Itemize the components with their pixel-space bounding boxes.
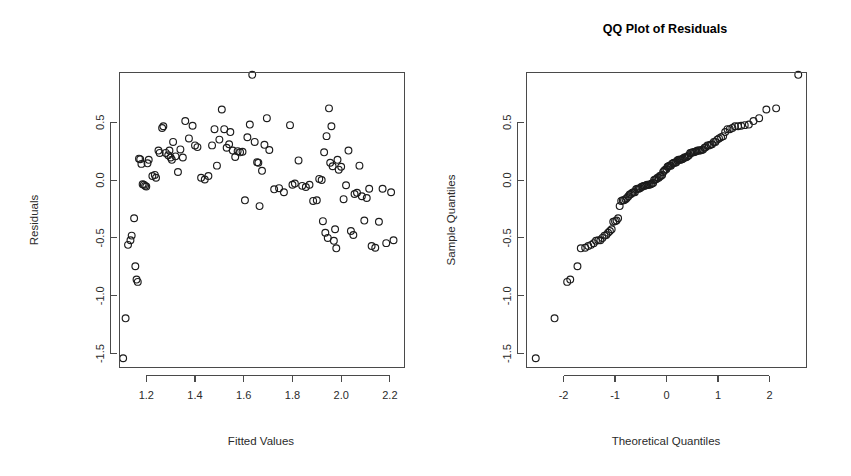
data-point [131, 215, 138, 222]
qq-plot-box [527, 73, 807, 368]
qq-axes: -2-10120.50.0-0.5-1.0-1.5 [502, 115, 773, 401]
y-tick-label: -1.0 [502, 286, 514, 305]
data-point [242, 197, 249, 204]
x-tick-label: 2 [766, 389, 772, 401]
x-tick-label: 1.4 [187, 389, 202, 401]
data-point [763, 106, 770, 113]
x-tick-label: 2.2 [382, 389, 397, 401]
data-point [227, 129, 234, 136]
data-point [179, 154, 186, 161]
data-point [388, 189, 395, 196]
data-point [244, 134, 251, 141]
data-point [321, 149, 328, 156]
data-point [574, 263, 581, 270]
data-point [334, 156, 341, 163]
data-point [251, 139, 258, 146]
y-tick-label: -1.5 [95, 344, 107, 363]
y-tick-label: 0.5 [502, 115, 514, 130]
data-point [333, 245, 340, 252]
data-point [160, 123, 167, 130]
data-point [328, 123, 335, 130]
data-point [345, 147, 352, 154]
data-point [209, 142, 216, 149]
data-point [773, 105, 780, 112]
data-point [287, 122, 294, 129]
x-tick-label: 1.8 [285, 389, 300, 401]
data-point [214, 162, 221, 169]
residuals-y-axis-title: Residuals [28, 195, 40, 246]
y-tick-label: -1.0 [95, 286, 107, 305]
data-point [756, 115, 763, 122]
data-point [551, 315, 558, 322]
y-tick-label: -0.5 [95, 228, 107, 247]
y-tick-label: 0.0 [502, 172, 514, 187]
data-point [326, 105, 333, 112]
x-tick-label: 2.0 [334, 389, 349, 401]
residuals-x-axis-title: Fitted Values [228, 435, 295, 447]
data-point [295, 157, 302, 164]
data-point [263, 115, 270, 122]
data-point [532, 355, 539, 362]
y-tick-label: 0.0 [95, 172, 107, 187]
data-point [175, 169, 182, 176]
y-tick-label: -1.5 [502, 344, 514, 363]
data-point [211, 126, 218, 133]
diagnostic-figure: 1.21.41.61.82.02.20.50.0-0.5-1.0-1.5 Fit… [0, 0, 851, 476]
data-point [259, 167, 266, 174]
data-point [343, 182, 350, 189]
data-point [332, 226, 339, 233]
data-point [745, 121, 752, 128]
data-point [281, 189, 288, 196]
data-point [323, 133, 330, 140]
data-point [246, 121, 253, 128]
data-point [354, 189, 361, 196]
residuals-plot-box [120, 73, 405, 368]
qq-plot-svg: QQ Plot of Residuals -2-10120.50.0-0.5-1… [430, 0, 851, 476]
qq-plot-panel: QQ Plot of Residuals -2-10120.50.0-0.5-1… [430, 0, 851, 476]
data-point [390, 237, 397, 244]
data-point [186, 135, 193, 142]
qq-y-axis-title: Sample Quantiles [445, 174, 457, 265]
data-point [170, 139, 177, 146]
residuals-points-layer [120, 71, 397, 361]
data-point [189, 122, 196, 129]
x-tick-label: 1 [715, 389, 721, 401]
qq-plot-title: QQ Plot of Residuals [603, 22, 727, 36]
data-point [182, 118, 189, 125]
x-tick-label: 0 [663, 389, 669, 401]
data-point [320, 218, 327, 225]
y-tick-label: -0.5 [502, 228, 514, 247]
data-point [383, 240, 390, 247]
data-point [271, 186, 278, 193]
data-point [356, 162, 363, 169]
x-tick-label: -1 [610, 389, 620, 401]
residuals-plot-svg: 1.21.41.61.82.02.20.50.0-0.5-1.0-1.5 Fit… [0, 0, 430, 476]
data-point [379, 185, 386, 192]
data-point [218, 106, 225, 113]
x-tick-label: 1.2 [139, 389, 154, 401]
data-point [291, 180, 298, 187]
data-point [120, 355, 127, 362]
qq-x-axis-title: Theoretical Quantiles [612, 435, 721, 447]
x-tick-label: -2 [559, 389, 569, 401]
data-point [376, 218, 383, 225]
data-point [330, 237, 337, 244]
data-point [177, 146, 184, 153]
data-point [318, 177, 325, 184]
x-tick-label: 1.6 [236, 389, 251, 401]
data-point [122, 315, 129, 322]
residuals-vs-fitted-panel: 1.21.41.61.82.02.20.50.0-0.5-1.0-1.5 Fit… [0, 0, 430, 476]
data-point [132, 263, 139, 270]
data-point [366, 185, 373, 192]
residuals-axes: 1.21.41.61.82.02.20.50.0-0.5-1.0-1.5 [95, 115, 398, 401]
data-point [128, 232, 135, 239]
data-point [361, 217, 368, 224]
data-point [256, 203, 263, 210]
data-point [134, 278, 141, 285]
data-point [216, 136, 223, 143]
qq-points-layer [532, 71, 801, 361]
data-point [266, 147, 273, 154]
data-point [340, 196, 347, 203]
y-tick-label: 0.5 [95, 115, 107, 130]
